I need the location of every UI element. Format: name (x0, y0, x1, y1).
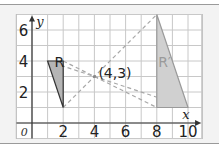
x-tick-label: 8 (152, 123, 162, 141)
y-tick-label: 4 (19, 53, 29, 71)
y-tick-label: 2 (19, 84, 29, 102)
y-axis-label: y (35, 14, 44, 29)
x-tick-label: 4 (90, 123, 100, 141)
x-tick-label: 6 (121, 123, 131, 141)
shape-label-r-prime: R′ (158, 54, 171, 70)
coordinate-grid: 2468102460xyRR′(4,3) (0, 0, 221, 150)
x-axis-label: x (182, 107, 190, 122)
x-tick-label: 10 (178, 123, 197, 141)
center-point (93, 75, 96, 78)
x-tick-label: 2 (58, 123, 68, 141)
shape-label-r: R (54, 54, 64, 70)
center-label: (4,3) (98, 65, 131, 81)
y-tick-label: 6 (19, 22, 29, 40)
origin-label: 0 (21, 126, 28, 139)
